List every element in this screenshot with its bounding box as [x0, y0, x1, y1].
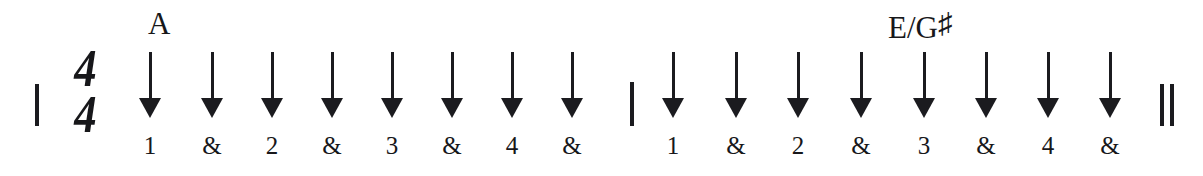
arrow-head	[139, 98, 161, 118]
beat-count-label: 3	[372, 132, 412, 160]
arrow-head	[850, 98, 872, 118]
downstroke-arrow-icon	[439, 52, 465, 118]
beat-count-label: &	[432, 132, 472, 160]
downstroke-arrow-icon	[499, 52, 525, 118]
strumming-pattern-diagram: 4 4 AE/G♯ 1&2&3&4&1&2&3&4&	[0, 0, 1203, 176]
arrow-head	[1099, 98, 1121, 118]
arrow-head	[913, 98, 935, 118]
downstroke-arrow-icon	[559, 52, 585, 118]
arrow-shaft	[797, 52, 800, 102]
middle-barline	[630, 82, 634, 126]
arrow-shaft	[511, 52, 514, 102]
arrow-shaft	[1047, 52, 1050, 102]
chord-label-text: E/G	[888, 10, 938, 45]
arrow-shaft	[735, 52, 738, 102]
arrow-shaft	[571, 52, 574, 102]
arrow-shaft	[149, 52, 152, 102]
beat-count-label: &	[552, 132, 592, 160]
arrow-head	[321, 98, 343, 118]
downstroke-arrow-icon	[785, 52, 811, 118]
beat-count-label: 2	[252, 132, 292, 160]
arrow-head	[561, 98, 583, 118]
beat-count-label: &	[192, 132, 232, 160]
arrow-shaft	[923, 52, 926, 102]
downstroke-arrow-icon	[137, 52, 163, 118]
arrow-shaft	[672, 52, 675, 102]
beat-count-label: &	[966, 132, 1006, 160]
downstroke-arrow-icon	[379, 52, 405, 118]
arrow-shaft	[451, 52, 454, 102]
chord-label: A	[148, 8, 170, 39]
beat-count-label: &	[716, 132, 756, 160]
arrow-shaft	[271, 52, 274, 102]
downstroke-arrow-icon	[259, 52, 285, 118]
downstroke-arrow-icon	[1035, 52, 1061, 118]
arrow-head	[662, 98, 684, 118]
arrow-shaft	[211, 52, 214, 102]
beat-count-label: &	[312, 132, 352, 160]
downstroke-arrow-icon	[911, 52, 937, 118]
downstroke-arrow-icon	[1097, 52, 1123, 118]
beat-count-label: 4	[1028, 132, 1068, 160]
arrow-head	[501, 98, 523, 118]
arrow-head	[1037, 98, 1059, 118]
beat-count-label: &	[841, 132, 881, 160]
downstroke-arrow-icon	[660, 52, 686, 118]
beat-count-label: &	[1090, 132, 1130, 160]
arrow-head	[975, 98, 997, 118]
downstroke-arrow-icon	[199, 52, 225, 118]
beat-count-label: 1	[130, 132, 170, 160]
time-signature-denominator: 4	[65, 92, 105, 138]
beat-count-label: 3	[904, 132, 944, 160]
arrow-shaft	[1109, 52, 1112, 102]
end-barline	[1160, 84, 1182, 126]
arrow-shaft	[391, 52, 394, 102]
start-barline	[35, 84, 39, 126]
chord-label-text: A	[148, 6, 170, 41]
arrow-shaft	[985, 52, 988, 102]
downstroke-arrow-icon	[973, 52, 999, 118]
arrow-head	[261, 98, 283, 118]
arrow-head	[441, 98, 463, 118]
beat-count-label: 2	[778, 132, 818, 160]
arrow-head	[725, 98, 747, 118]
arrow-head	[201, 98, 223, 118]
downstroke-arrow-icon	[723, 52, 749, 118]
downstroke-arrow-icon	[848, 52, 874, 118]
time-signature: 4 4	[62, 46, 108, 142]
arrow-shaft	[860, 52, 863, 102]
end-barline-stroke-2	[1170, 84, 1174, 126]
chord-label: E/G♯	[888, 8, 952, 43]
beat-count-label: 1	[653, 132, 693, 160]
downstroke-arrow-icon	[319, 52, 345, 118]
arrow-shaft	[331, 52, 334, 102]
arrow-head	[787, 98, 809, 118]
beat-count-label: 4	[492, 132, 532, 160]
end-barline-stroke-1	[1160, 84, 1164, 126]
sharp-icon: ♯	[938, 7, 953, 39]
arrow-head	[381, 98, 403, 118]
